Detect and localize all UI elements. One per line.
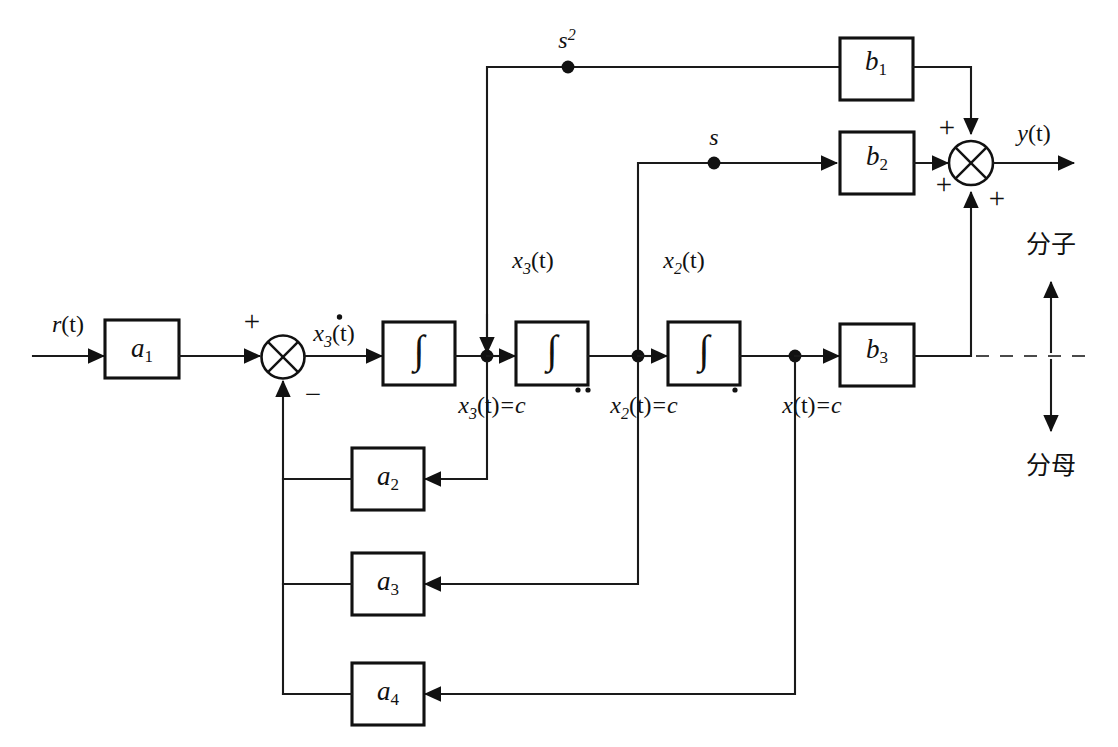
sign-input-summer-minus: − (305, 378, 321, 410)
signal-label-output: y(t) (1015, 120, 1050, 146)
state-equation-x3: x3(t)=c (457, 387, 590, 422)
block-diagram-canvas: a1 a2 a3 a4 b1 b2 b3 ∫ ∫ ∫ r(t) x3(t) x3… (0, 0, 1118, 747)
wire-b3-to-output-summer (914, 193, 971, 356)
overdot-marker (337, 314, 342, 319)
summer-input (262, 336, 305, 379)
diagram-svg: a1 a2 a3 a4 b1 b2 b3 ∫ ∫ ∫ r(t) x3(t) x3… (0, 0, 1118, 747)
svg-text:x3(t): x3(t) (312, 320, 354, 350)
sign-output-summer-plus-top: + (939, 111, 955, 143)
signal-label-input: r(t) (52, 311, 84, 337)
summer-output (949, 141, 993, 185)
wire-s2-feedforward (487, 67, 838, 349)
signal-label-x3dot: x3(t) (312, 314, 354, 350)
node-s-first (708, 157, 721, 170)
sign-output-summer-plus-bottom: + (989, 182, 1005, 214)
double-overdot-right (585, 387, 590, 392)
sign-input-summer-plus: + (244, 305, 260, 337)
double-overdot-left (575, 387, 580, 392)
laplace-label-s: s (709, 124, 718, 150)
svg-text:x(t)=c: x(t)=c (781, 392, 842, 418)
state-equation-x: x(t)=c (781, 392, 842, 418)
node-s-squared (562, 61, 575, 74)
signal-label-x3-vertical: x3(t) (511, 247, 553, 277)
partition-numerator-label: 分子 (1026, 230, 1076, 259)
signal-label-x2-vertical: x2(t) (662, 247, 704, 277)
sign-output-summer-plus-left: + (936, 168, 952, 200)
partition-denominator-label: 分母 (1026, 451, 1076, 480)
single-overdot (732, 387, 737, 392)
laplace-label-s-squared: s2 (558, 26, 575, 53)
state-equation-x2: x2(t)=c (609, 387, 737, 422)
svg-text:x3(t)=c: x3(t)=c (457, 392, 526, 422)
svg-text:x2(t)=c: x2(t)=c (609, 392, 678, 422)
